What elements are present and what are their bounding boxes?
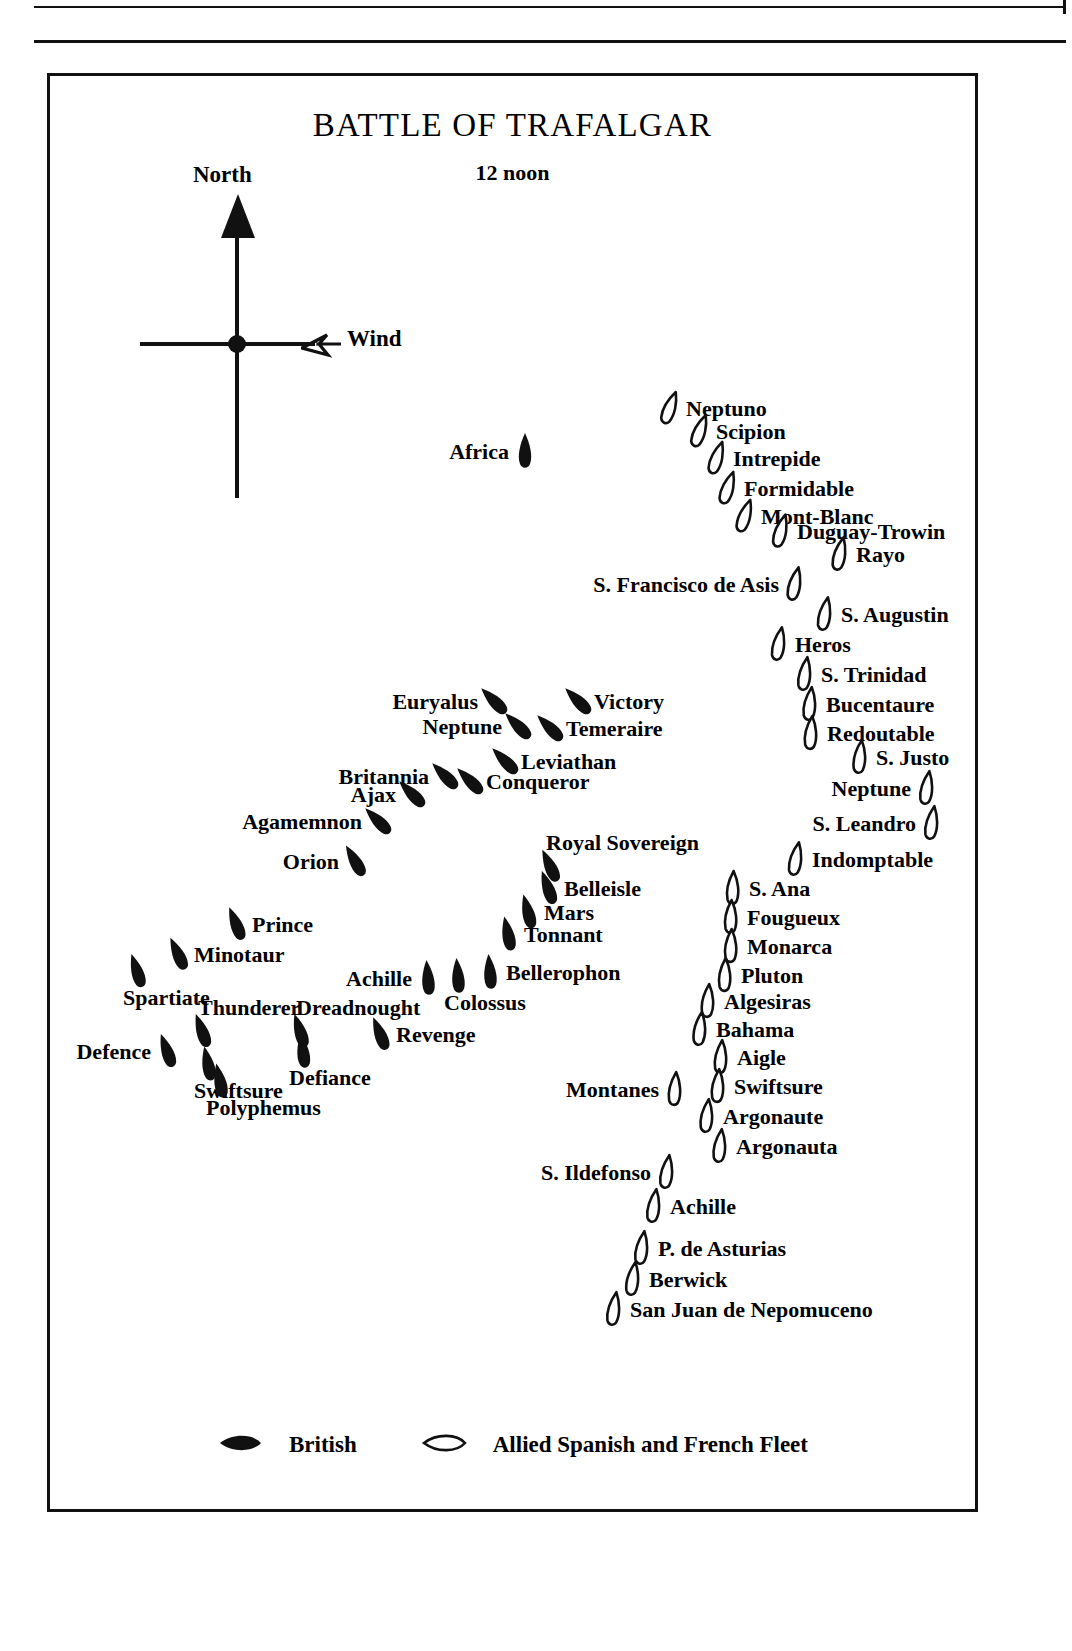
outline-arrow-right-icon: [301, 326, 341, 362]
ship-label: Dreadnought: [296, 997, 420, 1019]
outline-ship-icon: [920, 803, 943, 843]
outline-ship-icon: [655, 387, 685, 429]
ship-label: Mars: [544, 902, 594, 924]
filled-ship-icon: [417, 958, 438, 997]
ship-label: P. de Asturias: [658, 1238, 786, 1260]
page-edge-mark: [1063, 0, 1066, 14]
ship-label: Neptune: [832, 778, 911, 800]
ship-label: Revenge: [396, 1024, 475, 1046]
page-subtitle: 12 noon: [50, 160, 975, 186]
filled-ship-icon: [338, 840, 373, 882]
ship-label: Royal Sovereign: [546, 832, 699, 854]
ship-label: S. Trinidad: [821, 664, 927, 686]
ship-label: S. Augustin: [841, 604, 949, 626]
ship-label: Rayo: [856, 544, 905, 566]
ship-label: Thunderer: [198, 997, 300, 1019]
outline-ship-icon: [665, 1069, 686, 1108]
compass-wind-label: Wind: [347, 326, 402, 352]
ship-label: Bucentaure: [826, 694, 934, 716]
solid-arrow-up-icon: [221, 194, 255, 238]
outline-ship-icon: [782, 564, 808, 605]
ship-label: S. Ana: [749, 878, 810, 900]
ship-label: Redoutable: [827, 723, 935, 745]
ship-label: Monarca: [747, 936, 832, 958]
ship-label: Polyphemus: [206, 1097, 321, 1119]
ship-label: Defence: [76, 1041, 151, 1063]
ship-label: Indomptable: [812, 849, 933, 871]
ship-label: Aigle: [737, 1047, 786, 1069]
legend-allied-swatch: [421, 1431, 467, 1459]
ship-label: Defiance: [289, 1067, 371, 1089]
filled-ship-icon: [358, 801, 398, 841]
filled-ship-icon: [558, 681, 598, 721]
ship-label: Bellerophon: [506, 962, 621, 984]
ship-label: Agamemnon: [242, 811, 362, 833]
legend-british-swatch: [217, 1431, 263, 1459]
ship-label: Formidable: [744, 478, 854, 500]
ship-label: S. Leandro: [812, 813, 916, 835]
compass-vertical-axis: [235, 228, 239, 498]
ship-label: Berwick: [649, 1269, 727, 1291]
outline-ship-icon: [602, 1289, 625, 1329]
compass-center-dot: [228, 335, 246, 353]
battle-map-plate: BATTLE OF TRAFALGAR 12 noon North Wind A…: [47, 73, 978, 1512]
ship-label: Prince: [252, 914, 313, 936]
ship-label: Temeraire: [566, 718, 663, 740]
legend-allied-label: Allied Spanish and French Fleet: [493, 1432, 808, 1457]
ship-label: Swiftsure: [734, 1076, 823, 1098]
ship-label: Euryalus: [392, 691, 478, 713]
ship-label: Neptune: [423, 716, 502, 738]
ship-label: San Juan de Nepomuceno: [630, 1299, 873, 1321]
ship-label: Conqueror: [486, 771, 590, 793]
ship-label: Scipion: [716, 421, 786, 443]
map-legend: British Allied Spanish and French Fleet: [50, 1431, 975, 1459]
filled-ship-icon: [152, 1030, 182, 1072]
outline-ship-icon: [915, 768, 938, 808]
page-rule-top: [34, 6, 1066, 8]
ship-label: Achille: [670, 1196, 736, 1218]
outline-ship-icon: [642, 1186, 665, 1226]
ship-label: Argonauta: [736, 1136, 837, 1158]
outline-ship-icon: [731, 495, 760, 537]
legend-british-label: British: [289, 1432, 357, 1457]
outline-ship-icon: [849, 737, 871, 777]
ship-label: Achille: [346, 968, 412, 990]
outline-ship-icon: [709, 1126, 731, 1166]
filled-ship-icon: [530, 708, 570, 748]
filled-ship-icon: [516, 432, 534, 470]
page-title: BATTLE OF TRAFALGAR: [50, 107, 975, 144]
ship-label: S. Francisco de Asis: [593, 574, 779, 596]
filled-ship-icon: [162, 933, 194, 975]
outline-ship-icon: [813, 594, 837, 635]
ship-label: Orion: [283, 851, 339, 873]
ship-label: S. Justo: [876, 747, 949, 769]
outline-ship-icon: [655, 1152, 678, 1192]
outline-ship-icon: [689, 1009, 711, 1049]
ship-label: Tonnant: [524, 924, 603, 946]
outline-ship-icon: [801, 713, 822, 752]
ship-label: Spartiate: [123, 987, 210, 1009]
ship-label: Duguay-Trowin: [797, 521, 945, 543]
compass-rose: North Wind: [125, 186, 375, 426]
compass-north-label: North: [193, 162, 252, 188]
filled-ship-icon: [221, 903, 252, 945]
ship-label: Minotaur: [194, 944, 284, 966]
ship-label: Belleisle: [564, 878, 641, 900]
filled-ship-icon: [479, 952, 500, 991]
ship-label: Africa: [449, 441, 509, 463]
ship-label: Pluton: [741, 965, 803, 987]
ship-label: Victory: [594, 691, 664, 713]
ship-label: S. Ildefonso: [541, 1162, 651, 1184]
ship-label: Fougueux: [747, 907, 840, 929]
ship-label: Colossus: [444, 992, 526, 1014]
ship-label: Intrepide: [733, 448, 821, 470]
filled-ship-icon: [495, 914, 521, 955]
ship-label: Montanes: [566, 1079, 659, 1101]
page-rule-second: [34, 40, 1066, 43]
ship-label: Algesiras: [724, 991, 811, 1013]
ship-label: Heros: [795, 634, 851, 656]
ship-label: Argonaute: [723, 1106, 823, 1128]
outline-ship-icon: [767, 624, 791, 665]
outline-ship-icon: [784, 839, 808, 880]
